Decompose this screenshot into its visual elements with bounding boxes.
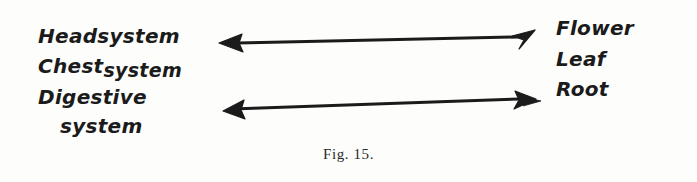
label-root: Root xyxy=(556,79,609,99)
right-label-column: Flower Leaf Root xyxy=(556,16,686,116)
arrowhead-left-lower xyxy=(223,100,245,119)
label-flower: Flower xyxy=(556,18,634,38)
figure-container: Headsystem Chestsystem Digestive system xyxy=(0,0,697,182)
figure-caption-text: Fig. 15. xyxy=(323,146,374,162)
figure-caption: Fig. 15. xyxy=(0,146,697,163)
label-leaf: Leaf xyxy=(556,49,606,69)
arrowhead-left-upper xyxy=(219,34,243,52)
arrow-shaft-upper xyxy=(238,37,517,43)
arrow-flower-to-headsystem xyxy=(219,30,535,52)
arrowhead-right-upper xyxy=(512,30,535,49)
arrow-digestive-to-root xyxy=(223,91,541,119)
arrow-shaft-lower xyxy=(232,99,520,109)
